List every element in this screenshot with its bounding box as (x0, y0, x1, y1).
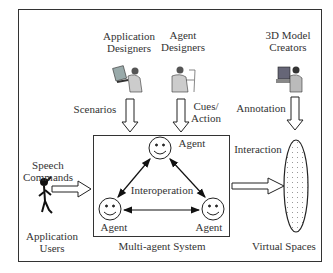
agent-top-label: Agent (174, 137, 210, 149)
agent-right-label: Agent (191, 221, 227, 233)
speech-commands-label: Speech Commands (20, 159, 76, 183)
scenarios-arrow (122, 99, 138, 132)
scenarios-label: Scenarios (70, 103, 120, 115)
annotation-label: Annotation (233, 102, 289, 114)
model-creator-person-icon (276, 67, 302, 93)
virtual-spaces-ellipse (284, 140, 308, 232)
application-users-label: Application Users (22, 230, 82, 254)
agent-designers-label: Agent Designers (158, 29, 208, 53)
agent-top-icon (149, 137, 171, 159)
agent-left-label: Agent (96, 221, 132, 233)
model-creators-label: 3D Model Creators (253, 29, 323, 53)
cues-action-label: Cues/ Action (188, 100, 224, 124)
virtual-spaces-label: Virtual Spaces (244, 240, 324, 252)
interoperation-label: Interoperation (127, 184, 197, 196)
speech-commands-arrow (52, 181, 91, 197)
app-designers-label: Application Designers (95, 30, 163, 54)
agent-designer-person-icon (172, 67, 195, 93)
multi-agent-system-label: Multi-agent System (110, 240, 214, 252)
agent-left-icon (99, 198, 121, 220)
interaction-label: Interaction (230, 143, 286, 155)
interaction-arrow (232, 178, 284, 194)
annotation-arrow (287, 97, 303, 130)
app-designer-person-icon (113, 66, 142, 92)
cues-action-arrow (173, 99, 189, 132)
agent-right-icon (202, 198, 224, 220)
